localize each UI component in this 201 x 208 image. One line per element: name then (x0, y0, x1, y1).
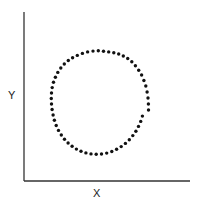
data-point (131, 134, 134, 137)
data-point (97, 49, 100, 52)
data-point (110, 150, 113, 153)
scatter-plot (0, 0, 201, 208)
data-point (137, 69, 140, 72)
data-point (112, 51, 115, 54)
data-point (147, 108, 150, 111)
data-point (130, 60, 133, 63)
data-point (76, 54, 79, 57)
data-point (50, 102, 53, 105)
data-point (142, 79, 145, 82)
data-point (79, 150, 82, 153)
data-point (145, 90, 148, 93)
data-point (63, 62, 66, 65)
data-point (51, 86, 54, 89)
data-point (107, 50, 110, 53)
data-point (51, 113, 54, 116)
data-point (117, 52, 120, 55)
data-point (56, 71, 59, 74)
data-point (124, 142, 127, 145)
data-point (59, 66, 62, 69)
data-point (89, 152, 92, 155)
data-point (102, 50, 105, 53)
data-point (71, 56, 74, 59)
data-point (120, 145, 123, 148)
data-point (134, 130, 137, 133)
data-point (84, 151, 87, 154)
data-point (63, 138, 66, 141)
data-point (67, 59, 70, 62)
data-point (115, 148, 118, 151)
data-point (128, 138, 131, 141)
data-point (66, 141, 69, 144)
data-point (50, 97, 53, 100)
data-point (81, 52, 84, 55)
data-point (141, 114, 144, 117)
data-point (134, 64, 137, 67)
data-point (147, 102, 150, 105)
data-point (126, 57, 129, 60)
data-point (140, 73, 143, 76)
data-point (95, 153, 98, 156)
data-point (50, 108, 53, 111)
data-point (52, 81, 55, 84)
data-point (86, 50, 89, 53)
data-points (50, 49, 151, 156)
data-point (146, 96, 149, 99)
data-point (100, 152, 103, 155)
data-point (57, 129, 60, 132)
y-axis-label: Y (8, 89, 15, 101)
data-point (60, 133, 63, 136)
data-point (53, 119, 56, 122)
data-point (50, 91, 53, 94)
data-point (139, 120, 142, 123)
data-point (55, 124, 58, 127)
data-point (105, 151, 108, 154)
data-point (144, 84, 147, 87)
data-point (54, 76, 57, 79)
data-point (91, 49, 94, 52)
data-point (70, 145, 73, 148)
data-point (122, 54, 125, 57)
data-point (75, 147, 78, 150)
data-point (137, 125, 140, 128)
x-axis-label: X (93, 187, 100, 199)
